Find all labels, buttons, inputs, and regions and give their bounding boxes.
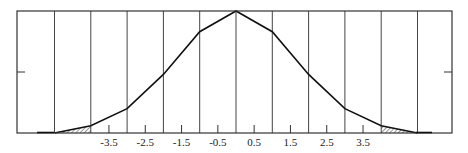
x-tick-label: 3.5 (356, 136, 370, 148)
x-tick-label: 1.5 (284, 136, 298, 148)
x-tick-label: -1.5 (173, 136, 191, 148)
plot-frame (17, 11, 452, 133)
x-tick-label: -2.5 (137, 136, 155, 148)
vertical-gridlines (55, 11, 418, 133)
x-axis-tick-labels: -3.5-2.5-1.5-0.50.51.52.53.5 (100, 136, 370, 148)
distribution-chart: -3.5-2.5-1.5-0.50.51.52.53.5 (0, 0, 468, 153)
x-tick-label: 0.5 (247, 136, 261, 148)
x-tick-label: -0.5 (209, 136, 227, 148)
x-tick-label: 2.5 (320, 136, 334, 148)
x-tick-label: -3.5 (100, 136, 118, 148)
